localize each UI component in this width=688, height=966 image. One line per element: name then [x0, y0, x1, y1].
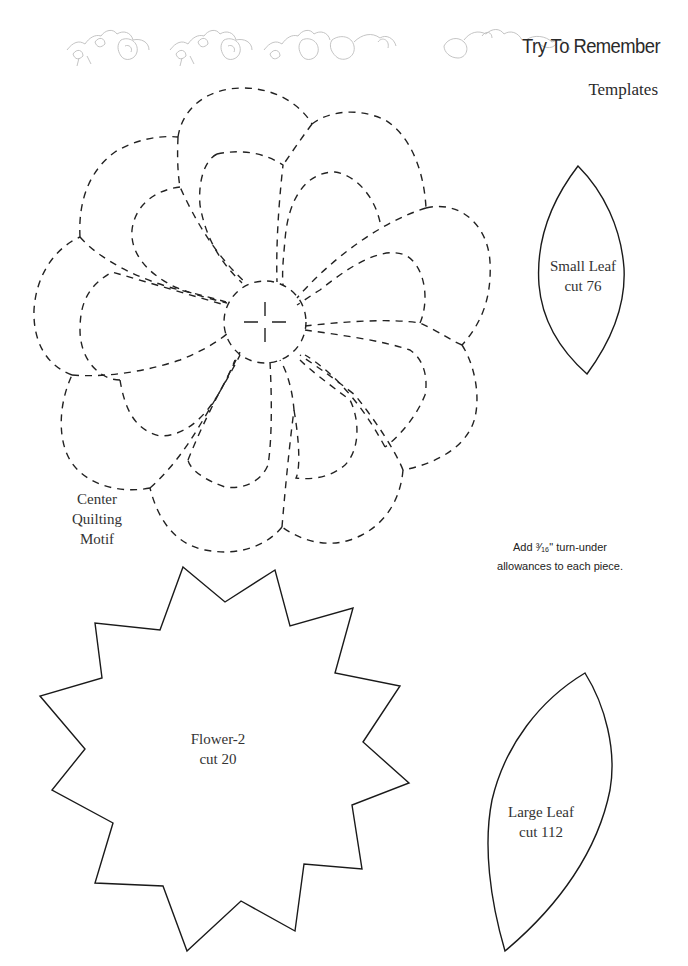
- center-motif-label: Center Quilting Motif: [52, 489, 142, 549]
- small-leaf-name: Small Leaf: [533, 256, 633, 276]
- turn-under-note: Add ³⁄₁₆" turn-under allowances to each …: [480, 538, 640, 576]
- large-leaf-name: Large Leaf: [486, 802, 596, 822]
- small-leaf-label: Small Leaf cut 76: [533, 256, 633, 296]
- large-leaf-cut-count: cut 112: [486, 822, 596, 842]
- turn-under-note-line: Add ³⁄₁₆" turn-under: [480, 538, 640, 557]
- center-motif-label-line: Motif: [52, 529, 142, 549]
- center-motif-label-line: Quilting: [52, 509, 142, 529]
- flower-2-cut-count: cut 20: [168, 749, 268, 769]
- header-subtitle: Templates: [520, 80, 658, 100]
- flower-2-label: Flower-2 cut 20: [168, 729, 268, 769]
- turn-under-note-line: allowances to each piece.: [480, 557, 640, 576]
- center-motif-label-line: Center: [52, 489, 142, 509]
- center-quilting-motif: [34, 88, 490, 552]
- small-leaf-cut-count: cut 76: [533, 276, 633, 296]
- header-title: Try To Remember: [485, 35, 660, 58]
- flower-2-name: Flower-2: [168, 729, 268, 749]
- large-leaf-label: Large Leaf cut 112: [486, 802, 596, 842]
